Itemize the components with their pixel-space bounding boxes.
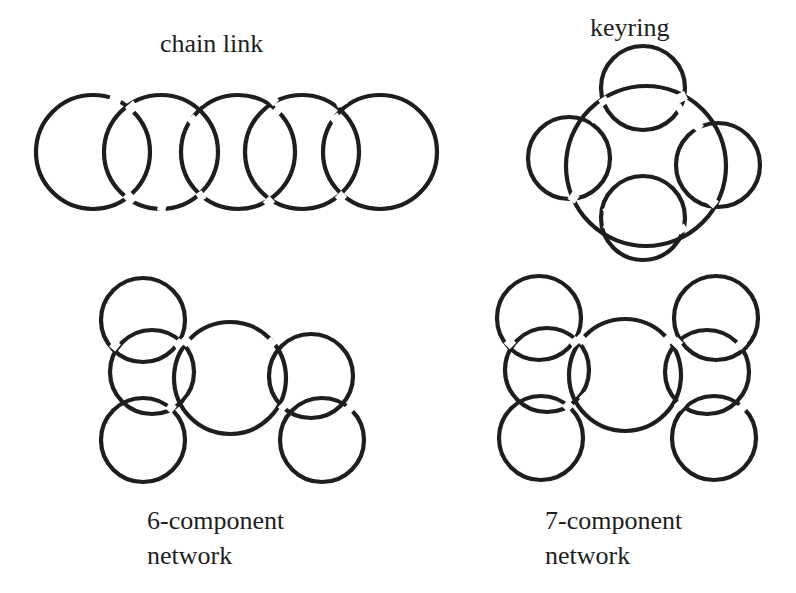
linked-rings-figure [0, 0, 796, 593]
chain-crossing-gaps [110, 96, 346, 208]
six-component-label-line2: network [147, 541, 232, 571]
six-component-network-diagram [101, 278, 364, 482]
net7-top-right-ring [674, 276, 758, 360]
net7-crossing-gaps [505, 336, 746, 410]
keyring-label: keyring [590, 13, 669, 43]
keyring-main-ring [566, 86, 726, 246]
chain-link-label: chain link [160, 29, 263, 59]
seven-component-label-line2: network [545, 541, 630, 571]
keyring-crossing-gaps [570, 93, 716, 232]
seven-component-network-diagram [497, 276, 758, 480]
keyring-diagram [528, 46, 760, 260]
six-component-label-line1: 6-component [147, 506, 284, 536]
chain-link-diagram [36, 95, 437, 209]
seven-component-label-line1: 7-component [545, 506, 682, 536]
